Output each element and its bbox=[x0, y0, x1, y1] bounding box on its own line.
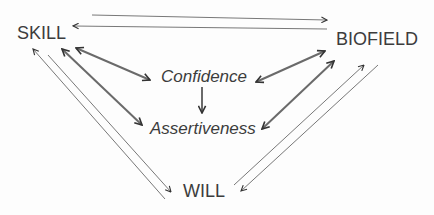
node-skill: SKILL bbox=[17, 24, 66, 42]
diagram-canvas: SKILL BIOFIELD WILL Confidence Assertive… bbox=[0, 0, 434, 215]
edge-skill-confidence bbox=[76, 48, 150, 80]
edge-skill-biofield bbox=[92, 15, 327, 20]
edge-biofield-skill bbox=[73, 26, 327, 29]
node-will: WILL bbox=[183, 182, 225, 200]
edge-skill-assertiveness bbox=[62, 49, 142, 125]
node-biofield: BIOFIELD bbox=[336, 30, 418, 48]
node-assertiveness: Assertiveness bbox=[150, 120, 256, 137]
node-confidence: Confidence bbox=[161, 68, 247, 85]
edge-biofield-assertiveness bbox=[262, 61, 334, 129]
edge-biofield-confidence bbox=[256, 51, 325, 82]
edge-will-skill bbox=[33, 49, 165, 199]
